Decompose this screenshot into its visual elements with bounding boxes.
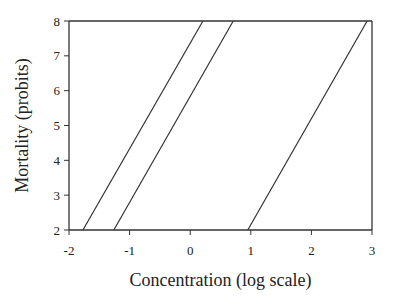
y-tick-label: 3 — [54, 188, 61, 203]
y-tick-label: 7 — [54, 48, 61, 63]
x-tick-label: 3 — [369, 243, 376, 258]
series-line-1 — [83, 21, 203, 230]
series-line-3 — [248, 21, 367, 230]
x-tick-label: -1 — [124, 243, 135, 258]
probit-chart: -2-101232345678 Concentration (log scale… — [0, 0, 394, 307]
x-axis-title: Concentration (log scale) — [130, 270, 312, 291]
x-tick-label: -2 — [64, 243, 75, 258]
x-tick-label: 1 — [248, 243, 255, 258]
axes-layer — [69, 21, 372, 230]
y-tick-label: 6 — [54, 83, 61, 98]
x-tick-label: 2 — [308, 243, 315, 258]
ticks-layer: -2-101232345678 — [54, 14, 376, 259]
y-axis-title: Mortality (probits) — [12, 58, 33, 192]
y-tick-label: 2 — [54, 223, 61, 238]
y-tick-label: 8 — [54, 14, 61, 29]
y-tick-label: 4 — [54, 153, 61, 168]
series-line-2 — [114, 21, 233, 230]
y-tick-label: 5 — [54, 118, 61, 133]
series-layer — [83, 21, 367, 230]
x-tick-label: 0 — [187, 243, 194, 258]
